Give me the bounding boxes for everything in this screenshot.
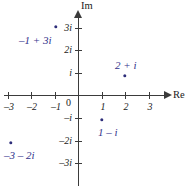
ticklabel-imag-neg3i: –3i <box>54 158 72 168</box>
imaginary-axis-label: Im <box>81 1 93 12</box>
real-axis-arrow-icon <box>164 91 172 99</box>
tick-real-3 <box>149 92 150 99</box>
point-label-2-plus-i: 2 + i <box>115 60 136 71</box>
ticklabel-imag-neg2i: –2i <box>54 136 72 146</box>
tick-real-2 <box>125 92 126 99</box>
ticklabel-imag-i: i <box>58 68 72 78</box>
ticklabel-real-neg2: –2 <box>27 102 37 112</box>
tick-imag-neg2i <box>75 141 82 142</box>
tick-real-neg1 <box>55 92 56 99</box>
tick-imag-neg3i <box>75 163 82 164</box>
ticklabel-imag-3i: 3i <box>58 23 72 33</box>
ticklabel-real-neg1: –1 <box>51 102 61 112</box>
complex-plane-figure: Re Im –3 –2 –1 1 2 3 0 3i 2i i –i –2i –3… <box>0 0 187 190</box>
ticklabel-real-3: 3 <box>148 102 153 112</box>
data-point <box>100 118 103 121</box>
point-label-neg1-plus-3i: –1 + 3i <box>19 35 51 46</box>
tick-imag-neg-i <box>75 118 82 119</box>
data-point <box>123 74 126 77</box>
tick-real-neg3 <box>8 92 9 99</box>
real-axis-line <box>4 95 166 96</box>
point-label-1-minus-i: 1 – i <box>98 127 118 138</box>
ticklabel-imag-neg-i: –i <box>56 113 72 123</box>
origin-label: 0 <box>66 98 71 108</box>
ticklabel-real-2: 2 <box>124 102 129 112</box>
tick-imag-2i <box>75 50 82 51</box>
imaginary-axis-line <box>78 14 79 186</box>
ticklabel-real-neg3: –3 <box>4 102 14 112</box>
tick-real-neg2 <box>31 92 32 99</box>
data-point <box>9 141 12 144</box>
ticklabel-imag-2i: 2i <box>58 45 72 55</box>
ticklabel-real-1: 1 <box>101 102 106 112</box>
tick-imag-i <box>75 73 82 74</box>
tick-real-1 <box>102 92 103 99</box>
real-axis-label: Re <box>173 90 185 101</box>
point-label-neg3-minus-2i: –3 – 2i <box>4 150 35 161</box>
tick-imag-3i <box>75 28 82 29</box>
